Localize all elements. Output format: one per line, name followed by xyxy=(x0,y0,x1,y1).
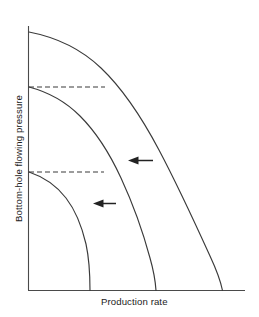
ipr-chart-figure: Production rate Bottom-hole flowing pres… xyxy=(0,0,259,317)
chart-canvas: Production rate Bottom-hole flowing pres… xyxy=(0,0,259,317)
outer-ipr-curve xyxy=(29,32,223,291)
lower-shift-arrow xyxy=(93,199,116,207)
tie-lines-group xyxy=(29,87,105,172)
lower-shift-arrow-head xyxy=(93,199,104,207)
middle-ipr-curve xyxy=(29,87,156,291)
x-axis-label: Production rate xyxy=(101,296,168,307)
upper-shift-arrow xyxy=(128,156,153,164)
upper-shift-arrow-head xyxy=(128,156,139,164)
inner-ipr-curve xyxy=(29,172,90,291)
ipr-curves-group xyxy=(29,32,223,291)
y-axis-label: Bottom-hole flowing pressure xyxy=(13,95,24,222)
